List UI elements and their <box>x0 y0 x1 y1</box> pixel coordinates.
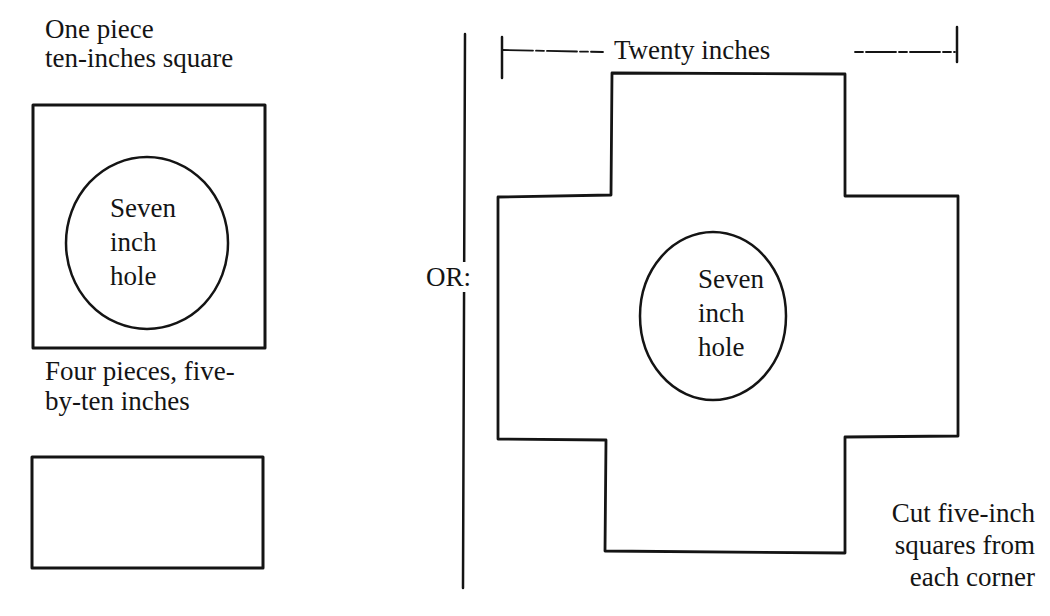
dimension-left-dash <box>503 50 603 52</box>
corner-note-line-1: Cut five-inch <box>892 498 1035 528</box>
separator-line <box>463 34 465 588</box>
corner-note-line-2: squares from <box>895 530 1035 560</box>
square-hole-label-line-3: hole <box>110 261 157 291</box>
cross-hole-label-line-2: inch <box>698 298 745 328</box>
square-hole-label-line-2: inch <box>110 227 157 257</box>
top-caption-line-1: One piece <box>45 14 154 44</box>
dimension-label: Twenty inches <box>614 35 770 65</box>
or-label: OR: <box>425 262 472 292</box>
rectangle-piece-outline <box>32 457 263 568</box>
corner-note-line-3: each corner <box>910 562 1035 592</box>
cross-hole-label-line-3: hole <box>698 332 745 362</box>
square-hole-label-line-1: Seven <box>110 193 176 223</box>
top-caption-line-2: ten-inches square <box>45 43 233 73</box>
cross-hole-label-line-1: Seven <box>698 264 764 294</box>
middle-caption-line-2: by-ten inches <box>45 386 190 416</box>
middle-caption-line-1: Four pieces, five- <box>45 356 235 386</box>
